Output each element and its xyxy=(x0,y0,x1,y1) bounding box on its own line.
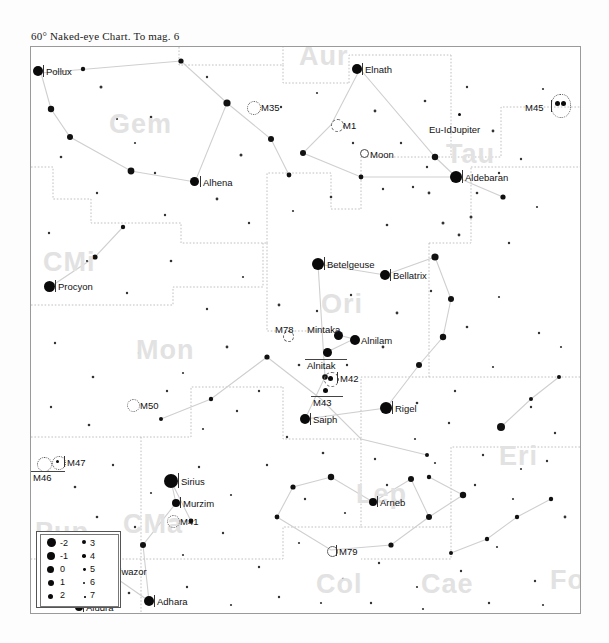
legend-label-mag-4: 4 xyxy=(90,551,95,561)
moon-label: Moon xyxy=(370,149,394,160)
star-marker-m47-core xyxy=(56,460,59,463)
star-tick-rigel xyxy=(392,401,393,414)
legend-row-0: -2 3 xyxy=(41,536,118,550)
star-marker-betelgeuse[interactable] xyxy=(312,258,324,270)
star-marker-aldebaran[interactable] xyxy=(450,171,462,183)
dso-label-m46: M46 xyxy=(33,472,51,483)
legend-dot-mag-minus2 xyxy=(47,538,56,547)
star-label-mintaka: Mintaka xyxy=(307,324,340,335)
star-tick-procyon xyxy=(55,280,56,292)
dso-marker-m46[interactable] xyxy=(37,457,52,472)
dso-label-m42: M42 xyxy=(340,373,358,384)
dso-tick-m45 xyxy=(551,100,552,112)
star-tick-murzim xyxy=(180,497,181,508)
star-marker-procyon[interactable] xyxy=(44,281,55,292)
dso-label-m79: M79 xyxy=(339,546,357,557)
star-marker-sirius[interactable] xyxy=(164,474,178,488)
chart-title: 60° Naked-eye Chart. To mag. 6 xyxy=(31,30,179,42)
dso-tick-m47 xyxy=(64,456,65,467)
dso-label-m50: M50 xyxy=(140,400,158,411)
star-label-pollux: Pollux xyxy=(46,66,72,77)
legend-label-mag-2: 2 xyxy=(60,590,65,600)
magnitude-legend: -2 3 -1 4 0 5 1 6 xyxy=(36,531,121,608)
dso-label-m41: M41 xyxy=(180,516,198,527)
star-marker-bellatrix[interactable] xyxy=(380,270,390,280)
star-label-sirius: Sirius xyxy=(181,476,205,487)
legend-dot-mag-1 xyxy=(48,580,54,586)
dso-marker-m43[interactable] xyxy=(323,388,328,393)
jupiter-marker[interactable] xyxy=(458,113,461,116)
legend-dot-mag-2 xyxy=(48,594,53,599)
star-label-bellatrix: Bellatrix xyxy=(393,270,427,281)
dso-label-m45: M45 xyxy=(525,102,543,113)
legend-row-4: 2 7 xyxy=(41,592,118,606)
dso-marker-m50[interactable] xyxy=(127,399,140,412)
star-marker-alhena[interactable] xyxy=(190,177,199,186)
legend-dot-mag-6 xyxy=(83,582,85,584)
legend-dot-mag-minus1 xyxy=(47,552,55,560)
star-marker-adhara[interactable] xyxy=(144,596,154,606)
star-tick-pollux xyxy=(43,65,44,77)
legend-label-mag-7: 7 xyxy=(90,590,95,600)
star-label-saiph: Saiph xyxy=(313,414,337,425)
legend-row-1: -1 4 xyxy=(41,550,118,564)
star-tick-arneb xyxy=(377,496,378,507)
star-label-arneb: Arneb xyxy=(380,497,405,508)
legend-dot-mag-0 xyxy=(47,566,54,573)
legend-label-mag-minus1: -1 xyxy=(60,551,68,561)
star-marker-elnath[interactable] xyxy=(352,64,362,74)
dso-label-m78: M78 xyxy=(275,324,293,335)
jupiter-moons-label: Eu-IdJupiter xyxy=(429,124,480,135)
dso-label-m1: M1 xyxy=(343,120,356,131)
star-tick-saiph xyxy=(310,413,311,425)
star-tick-betelgeuse xyxy=(324,257,325,270)
legend-label-mag-6: 6 xyxy=(90,577,95,587)
star-label-alnitak: Alnitak xyxy=(307,360,336,371)
star-marker-m45-b xyxy=(561,101,566,106)
sky-map-canvas[interactable]: Aur Gem Tau CMi Ori Mon Eri Pup CMa Lep … xyxy=(30,46,581,614)
star-label-alhena: Alhena xyxy=(203,177,233,188)
star-tick-alhena xyxy=(200,176,201,187)
legend-label-mag-5: 5 xyxy=(90,564,95,574)
dso-label-m43: M43 xyxy=(313,397,331,408)
star-marker-rigel[interactable] xyxy=(380,402,392,414)
star-tick-adhara xyxy=(154,595,155,607)
star-label-alnilam: Alnilam xyxy=(361,335,392,346)
moon-icon[interactable] xyxy=(360,149,369,158)
dso-marker-m41[interactable] xyxy=(167,515,180,528)
legend-label-mag-1: 1 xyxy=(60,577,65,587)
legend-label-mag-0: 0 xyxy=(60,564,65,574)
star-marker-saiph[interactable] xyxy=(300,414,310,424)
star-marker-trapezium xyxy=(328,376,333,381)
star-marker-arneb[interactable] xyxy=(369,498,377,506)
star-label-aldebaran: Aldebaran xyxy=(465,172,508,183)
star-marker-alnitak[interactable] xyxy=(323,348,332,357)
legend-dot-mag-7 xyxy=(84,596,86,598)
star-marker-pollux[interactable] xyxy=(33,66,43,76)
star-label-betelgeuse: Betelgeuse xyxy=(327,259,375,270)
legend-label-mag-3: 3 xyxy=(90,538,95,548)
star-label-murzim: Murzim xyxy=(183,498,214,509)
dso-label-m47: M47 xyxy=(67,457,85,468)
star-marker-alnilam[interactable] xyxy=(350,335,360,345)
dso-marker-m45[interactable] xyxy=(551,94,571,118)
star-tick-elnath xyxy=(362,63,363,75)
legend-label-mag-minus2: -2 xyxy=(60,538,68,548)
legend-row-2: 0 5 xyxy=(41,564,118,578)
legend-dot-mag-3 xyxy=(82,540,86,544)
legend-dot-mag-5 xyxy=(83,568,86,571)
star-label-rigel: Rigel xyxy=(395,403,417,414)
star-tick-aldebaran xyxy=(462,170,463,183)
star-tick-sirius xyxy=(178,473,179,488)
star-label-procyon: Procyon xyxy=(58,281,93,292)
dso-label-m35: M35 xyxy=(261,102,279,113)
star-marker-m45-a xyxy=(555,101,560,106)
star-label-elnath: Elnath xyxy=(365,64,392,75)
dso-marker-m35[interactable] xyxy=(247,101,261,115)
dso-tick-m79 xyxy=(336,545,337,556)
dso-tick-m42 xyxy=(337,372,338,383)
legend-row-3: 1 6 xyxy=(41,578,118,592)
star-chart-page: 60° Naked-eye Chart. To mag. 6 xyxy=(0,0,609,643)
star-marker-murzim[interactable] xyxy=(172,499,180,507)
star-label-adhara: Adhara xyxy=(157,596,188,607)
